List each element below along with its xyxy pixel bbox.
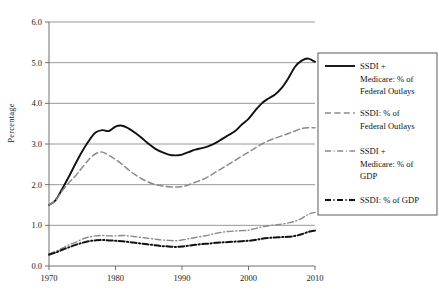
legend-label-2-line-0: SSDI +: [360, 146, 386, 156]
y-tick-label: 3.0: [31, 139, 42, 149]
series-line-0: [49, 59, 315, 205]
legend-label-2-line-2: GDP: [360, 171, 377, 181]
x-tick-label: 2010: [307, 273, 324, 283]
legend-label-0-line-1: Medicare: % of: [360, 74, 414, 84]
y-tick-label: 0.0: [31, 261, 42, 271]
y-tick-label: 1.0: [31, 220, 42, 230]
line-chart-plot: 0.01.02.03.04.05.06.01970198019902000201…: [0, 0, 439, 305]
x-tick-label: 1990: [174, 273, 191, 283]
chart-figure: Percentage 0.01.02.03.04.05.06.019701980…: [0, 0, 439, 305]
x-tick-label: 1970: [41, 273, 58, 283]
y-tick-label: 4.0: [31, 98, 42, 108]
y-tick-label: 2.0: [31, 180, 42, 190]
x-tick-label: 1980: [107, 273, 124, 283]
x-tick-label: 2000: [240, 273, 257, 283]
legend-label-0-line-2: Federal Outlays: [360, 86, 415, 96]
series-line-3: [49, 231, 315, 255]
series-line-2: [49, 212, 315, 253]
legend-label-3-line-0: SSDI: % of GDP: [360, 195, 419, 205]
y-tick-label: 6.0: [31, 17, 42, 27]
y-tick-label: 5.0: [31, 58, 42, 68]
legend-label-2-line-1: Medicare: % of: [360, 159, 414, 169]
legend-label-1-line-0: SSDI: % of: [360, 108, 400, 118]
legend-label-1-line-1: Federal Outlays: [360, 121, 415, 131]
legend-label-0-line-0: SSDI +: [360, 61, 386, 71]
